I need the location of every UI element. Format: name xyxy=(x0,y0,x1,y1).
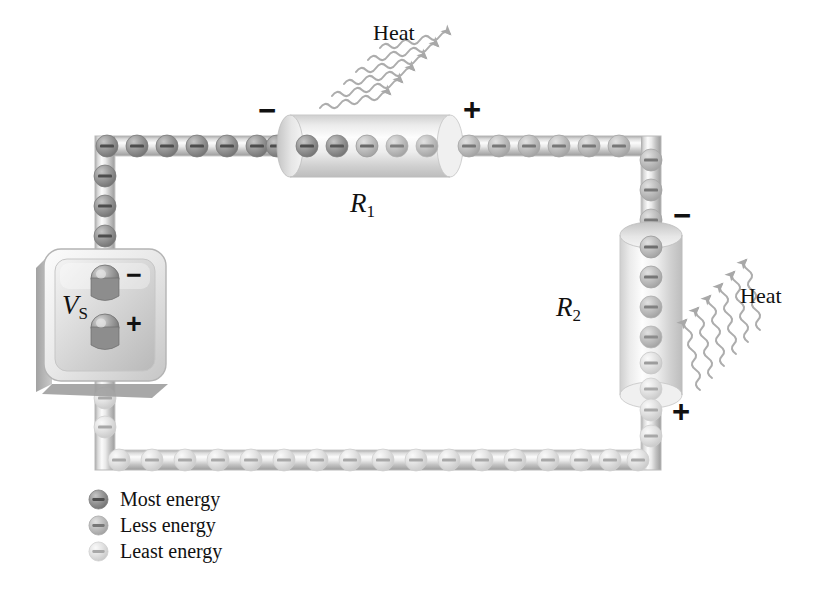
electron xyxy=(471,449,493,471)
electron xyxy=(296,135,318,157)
voltage-source xyxy=(36,249,168,398)
r1-label: R1 xyxy=(350,190,375,220)
electron xyxy=(640,179,662,201)
electron xyxy=(640,149,662,171)
electron xyxy=(599,449,621,471)
electron xyxy=(488,135,510,157)
electron xyxy=(94,195,116,217)
electron xyxy=(186,135,208,157)
circuit-energy-diagram: Heat Heat − + R1 − + R2 VS − + xyxy=(0,0,817,601)
legend-item-less: Less energy xyxy=(88,512,222,538)
electron xyxy=(372,449,394,471)
electron xyxy=(640,352,662,374)
electron xyxy=(339,449,361,471)
electron xyxy=(216,135,238,157)
r1-positive-sign: + xyxy=(463,94,481,125)
electron-icon xyxy=(88,515,109,536)
electron xyxy=(504,449,526,471)
electron xyxy=(640,296,662,318)
r2-label-sub: 2 xyxy=(573,306,582,325)
electron xyxy=(326,135,348,157)
electron xyxy=(640,425,662,447)
electron xyxy=(640,236,662,258)
electron xyxy=(273,449,295,471)
heat-label-r2: Heat xyxy=(740,285,782,307)
r2-positive-sign: + xyxy=(672,396,690,427)
electron xyxy=(640,399,662,421)
legend-label-less: Less energy xyxy=(120,514,216,537)
electron xyxy=(156,135,178,157)
source-negative-sign: − xyxy=(126,262,142,289)
electron xyxy=(518,135,540,157)
source-positive-sign: + xyxy=(126,311,142,338)
electron xyxy=(207,449,229,471)
r2-label-main: R xyxy=(556,292,573,322)
electron xyxy=(96,135,118,157)
electron xyxy=(537,449,559,471)
electron xyxy=(141,449,163,471)
electron xyxy=(458,135,480,157)
legend-item-most: Most energy xyxy=(88,486,222,512)
electron xyxy=(94,416,116,438)
electron-icon xyxy=(88,541,109,562)
electron xyxy=(246,135,268,157)
electron xyxy=(608,135,630,157)
legend-label-least: Least energy xyxy=(120,540,222,563)
electron xyxy=(640,266,662,288)
electron-icon xyxy=(88,489,109,510)
r1-negative-sign: − xyxy=(258,95,276,126)
electron xyxy=(640,326,662,348)
electron xyxy=(416,135,438,157)
source-terminal-positive xyxy=(91,314,119,350)
resistor-r2 xyxy=(620,222,682,408)
electron xyxy=(405,449,427,471)
r1-label-sub: 1 xyxy=(367,202,376,221)
r2-label: R2 xyxy=(556,294,581,324)
source-label-main: V xyxy=(62,290,79,320)
electron xyxy=(386,135,408,157)
source-label-sub: S xyxy=(79,304,88,323)
electron xyxy=(438,449,460,471)
electron xyxy=(94,225,116,247)
electron xyxy=(578,135,600,157)
source-label: VS xyxy=(62,292,88,322)
legend: Most energy Less energy xyxy=(88,486,222,564)
electron xyxy=(356,135,378,157)
electron xyxy=(126,135,148,157)
electrons-left-upper xyxy=(94,165,116,247)
heat-waves-r2 xyxy=(684,260,760,390)
electron xyxy=(174,449,196,471)
resistor-r1 xyxy=(277,115,463,177)
electron xyxy=(108,449,130,471)
electron xyxy=(640,378,662,400)
legend-item-least: Least energy xyxy=(88,538,222,564)
electron xyxy=(548,135,570,157)
electron xyxy=(306,449,328,471)
r1-label-main: R xyxy=(350,188,367,218)
electron xyxy=(240,449,262,471)
r2-negative-sign: − xyxy=(673,200,691,231)
legend-label-most: Most energy xyxy=(120,488,220,511)
electron xyxy=(570,449,592,471)
electron xyxy=(627,449,649,471)
source-terminal-negative xyxy=(91,265,119,301)
electron xyxy=(94,165,116,187)
heat-label-r1: Heat xyxy=(373,22,415,44)
source-base-shadow xyxy=(42,384,168,398)
